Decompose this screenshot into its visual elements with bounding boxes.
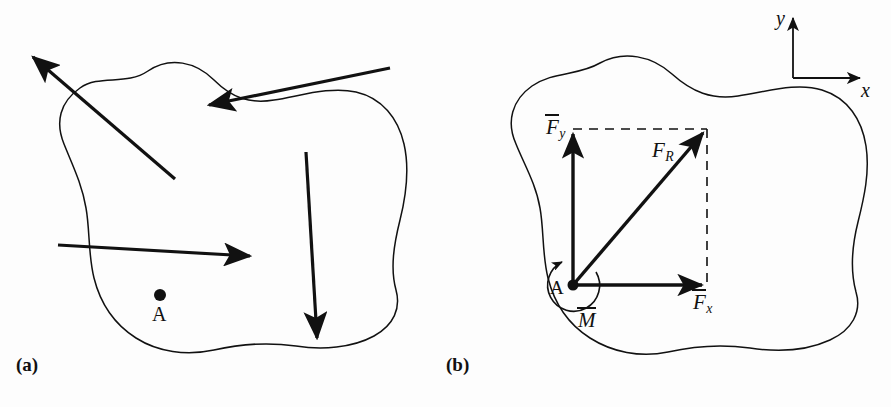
label-f-r: FR: [652, 140, 674, 164]
f-y-symbol: F: [546, 117, 559, 138]
label-f-y: Fy: [546, 117, 565, 141]
f-x-symbol: F: [693, 292, 706, 313]
body-outline-a: [60, 62, 407, 352]
figure-drawing: [0, 0, 891, 407]
panel-caption-a: (a): [16, 354, 38, 376]
axis-label-x: x: [861, 80, 870, 100]
label-f-x: Fx: [693, 292, 712, 316]
force-arrow-a-4: [306, 152, 317, 338]
force-arrow-a-3: [58, 245, 250, 256]
f-y-subscript: y: [559, 126, 565, 141]
point-a-label-panel-a: A: [152, 304, 166, 324]
label-moment-m: M: [578, 310, 596, 331]
moment-symbol: M: [578, 310, 596, 331]
panel-caption-b: (b): [446, 354, 469, 376]
panel-b-group: [511, 18, 867, 354]
point-a-label-panel-b: A: [550, 278, 564, 297]
f-r-symbol: F: [652, 138, 665, 162]
point-a-marker: [154, 289, 166, 301]
vector-fr: [573, 133, 703, 285]
f-r-subscript: R: [665, 149, 673, 164]
axis-label-y: y: [776, 8, 785, 28]
panel-a-group: [33, 57, 407, 353]
point-a-origin-marker: [568, 280, 579, 291]
figure-root: A A Fy Fx FR M y x (a) (b): [0, 0, 891, 407]
force-arrow-a-2: [209, 68, 390, 105]
force-arrow-a-1: [33, 57, 175, 179]
f-x-subscript: x: [706, 301, 712, 316]
